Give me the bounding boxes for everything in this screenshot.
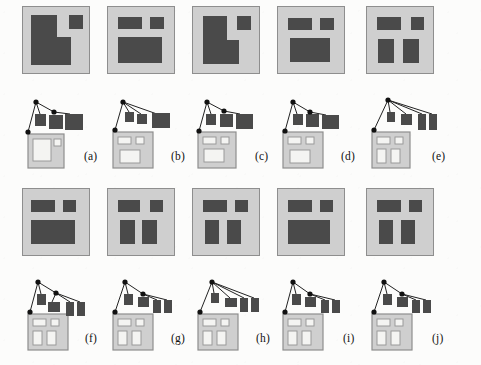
reference-block-e-0 <box>377 17 401 30</box>
graph-node-f-1 <box>53 290 58 295</box>
facade-reference-g <box>107 188 175 256</box>
scene-facade-block-e-3 <box>391 149 400 163</box>
graph-node-e-1 <box>371 127 376 132</box>
graph-patch-b-2 <box>152 113 170 128</box>
graph-node-a-1 <box>51 109 56 114</box>
graph-node-d-0 <box>290 99 295 104</box>
reference-block-j-3 <box>401 220 415 244</box>
panel-row-bottom: (f)(g)(h)(i)(j) <box>0 182 481 362</box>
graph-patch-c-2 <box>236 114 253 129</box>
graph-node-j-0 <box>381 279 386 284</box>
graph-patch-i-0 <box>292 294 301 305</box>
graph-node-g-2 <box>112 309 117 314</box>
scene-facade-block-h-2 <box>203 331 212 345</box>
graph-edge-a-1 <box>28 102 36 132</box>
scene-facade-block-d-0 <box>288 137 301 144</box>
graph-patch-d-1 <box>306 114 319 127</box>
scene-facade-block-h-1 <box>221 319 229 326</box>
panel-label-c: (c) <box>255 150 268 162</box>
graph-node-b-1 <box>112 127 117 132</box>
facade-reference-b <box>107 6 175 74</box>
graph-patch-a-1 <box>49 115 63 129</box>
graph-edge-b-0 <box>115 102 123 130</box>
graph-node-d-1 <box>307 109 312 114</box>
scene-facade-block-j-0 <box>377 319 390 326</box>
graph-patch-f-3 <box>77 302 85 316</box>
facade-reference-i <box>277 188 345 256</box>
graph-patch-a-0 <box>35 114 46 126</box>
scene-facade-block-b-1 <box>136 137 144 144</box>
graph-patch-j-2 <box>412 300 420 313</box>
graph-patch-e-2 <box>418 114 426 130</box>
scene-facade-block-j-3 <box>391 331 400 345</box>
graph-patch-h-1 <box>225 298 237 307</box>
reference-block-h-2 <box>205 220 219 244</box>
panel-label-d: (d) <box>341 150 355 162</box>
graph-edge-h-0 <box>200 282 212 312</box>
scene-facade-block-i-2 <box>288 331 297 345</box>
panel-label-a: (a) <box>84 150 97 162</box>
graph-node-g-1 <box>140 291 145 296</box>
graph-patch-j-1 <box>397 297 408 307</box>
scene-facade-block-i-0 <box>288 319 301 326</box>
facade-reference-a <box>22 6 90 74</box>
panel-row-top: (a)(b)(c)(d)(e) <box>0 0 481 180</box>
graph-node-c-0 <box>204 99 209 104</box>
graph-edge-e-2 <box>388 100 406 114</box>
scene-facade-block-d-1 <box>306 137 314 144</box>
figure-canvas: (a)(b)(c)(d)(e) (f)(g)(h)(i)(j) <box>0 0 481 365</box>
scene-facade-block-h-3 <box>217 331 226 345</box>
reference-block-b-2 <box>118 37 162 63</box>
graph-patch-i-1 <box>305 297 316 307</box>
graph-patch-c-1 <box>220 114 233 127</box>
graph-node-f-0 <box>35 279 40 284</box>
graph-patch-h-0 <box>211 293 219 303</box>
graph-patch-h-2 <box>240 298 248 312</box>
panel-e: (e) <box>366 0 451 180</box>
reference-block-j-2 <box>379 220 393 244</box>
panel-label-g: (g) <box>171 332 185 344</box>
graph-patch-e-0 <box>387 112 395 122</box>
graph-patch-b-1 <box>137 114 147 124</box>
reference-block-f-0 <box>31 200 55 212</box>
graph-patch-a-2 <box>65 114 83 130</box>
graph-patch-g-1 <box>138 297 149 307</box>
graph-edge-e-4 <box>388 100 432 114</box>
graph-node-a-0 <box>33 99 38 104</box>
graph-node-f-2 <box>27 309 32 314</box>
scene-facade-block-g-2 <box>118 331 127 345</box>
reference-block-h-0 <box>203 200 227 212</box>
graph-node-j-2 <box>371 309 376 314</box>
graph-node-i-2 <box>282 309 287 314</box>
scene-facade-block-i-3 <box>302 331 311 345</box>
scene-facade-block-c-0 <box>203 137 216 144</box>
scene-facade-block-c-1 <box>221 137 229 144</box>
graph-patch-g-0 <box>124 294 133 305</box>
reference-block-f-2 <box>31 220 75 244</box>
scene-facade-block-g-3 <box>132 331 141 345</box>
graph-patch-j-0 <box>383 294 392 305</box>
scene-facade-block-h-0 <box>203 319 216 326</box>
reference-block-c-1 <box>203 40 239 64</box>
facade-reference-j <box>366 188 434 256</box>
reference-block-c-2 <box>237 16 251 30</box>
scene-facade-block-c-2 <box>204 149 224 162</box>
scene-facade-block-f-3 <box>47 331 56 345</box>
graph-patch-g-2 <box>153 300 161 313</box>
reference-block-d-1 <box>320 18 334 30</box>
graph-node-i-1 <box>307 291 312 296</box>
reference-block-h-3 <box>227 220 241 244</box>
facade-reference-e <box>366 6 434 74</box>
graph-node-b-0 <box>120 99 125 104</box>
panel-a: (a) <box>22 0 107 180</box>
graph-node-g-0 <box>122 279 127 284</box>
graph-node-d-2 <box>282 128 287 133</box>
reference-block-g-1 <box>150 200 163 212</box>
reference-block-h-1 <box>235 200 248 212</box>
graph-edge-i-1 <box>285 282 293 312</box>
graph-patch-h-3 <box>251 298 259 312</box>
reference-block-d-2 <box>290 38 330 62</box>
panel-label-e: (e) <box>432 150 445 162</box>
graph-node-c-1 <box>221 108 226 113</box>
reference-block-g-0 <box>118 200 140 212</box>
